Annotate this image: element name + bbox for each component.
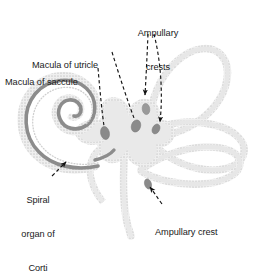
label-spiral-organ-of-corti-line2: organ of: [8, 229, 68, 240]
label-ampullary-crest: Ampullary crest: [155, 205, 255, 250]
label-ampullary-crest-line1: Ampullary crest: [155, 227, 255, 238]
label-macula-of-saccule: Macula of saccule: [5, 55, 115, 100]
label-macula-of-saccule-line1: Macula of saccule: [5, 77, 115, 88]
label-spiral-organ-of-corti-line3: Corti: [8, 263, 68, 274]
label-spiral-organ-of-corti-line1: Spiral: [8, 195, 68, 206]
label-spiral-organ-of-corti: Spiral organ of Corti: [8, 173, 68, 275]
